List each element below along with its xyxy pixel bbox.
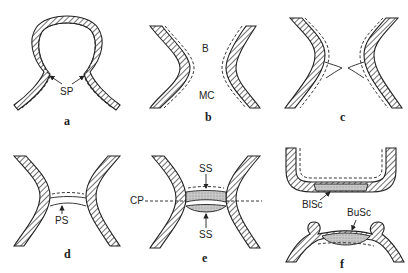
label-ps: PS	[55, 215, 69, 226]
panel-a: SP a	[14, 16, 120, 128]
panel-e: SS CP SS e	[130, 156, 262, 265]
label-busc: BuSc	[347, 207, 371, 218]
panel-label-b: b	[205, 110, 212, 124]
label-mc: MC	[199, 90, 215, 101]
panel-label-c: c	[340, 110, 346, 124]
label-ss-top: SS	[199, 163, 213, 174]
membrane-wall-right	[86, 156, 120, 246]
panel-label-e: e	[202, 251, 208, 265]
membrane-wall-left	[150, 156, 186, 248]
panel-label-f: f	[340, 257, 345, 271]
label-sp: SP	[60, 86, 74, 97]
label-blsc: BlSc	[302, 199, 323, 210]
panel-c: c	[285, 18, 402, 124]
membrane-wall-left	[14, 156, 50, 246]
panel-b: B MC b	[150, 26, 260, 124]
membrane-wall-left	[285, 18, 325, 108]
label-b: B	[202, 43, 209, 54]
membrane-wall-left	[150, 26, 190, 108]
membrane-wall-right	[226, 156, 260, 248]
panel-label-a: a	[64, 114, 70, 128]
membrane-wall-right	[364, 18, 402, 108]
membrane-fusion-diagram: SP a B MC b c PS d	[0, 0, 408, 273]
panel-f: BlSc BuSc f	[286, 148, 404, 271]
label-cp: CP	[130, 195, 144, 206]
panel-label-d: d	[64, 247, 71, 261]
label-ss-bottom: SS	[199, 229, 213, 240]
membrane-wall-right	[226, 26, 260, 108]
panel-d: PS d	[14, 156, 120, 261]
